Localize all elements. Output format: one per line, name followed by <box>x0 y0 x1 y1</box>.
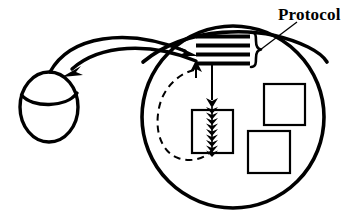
protocol-bar-1 <box>196 35 250 39</box>
small-ellipse-body <box>20 72 78 142</box>
protocol-bar-3 <box>196 53 250 57</box>
arrow-response-inbound-path <box>72 48 196 69</box>
diagram-svg-root <box>0 0 362 216</box>
right-curly-brace-path <box>251 32 261 67</box>
protocol-label: Protocol <box>278 6 341 23</box>
protocol-bar-2 <box>196 44 250 48</box>
diagram-canvas: Protocol <box>0 0 362 216</box>
small-ellipse-lid-arc <box>22 93 78 105</box>
arrow-bars-to-rectangle <box>206 63 218 108</box>
small-ellipse-group <box>20 72 78 142</box>
dashed-feedback-loop <box>158 70 212 160</box>
protocol-bar-4 <box>196 62 250 66</box>
square-lower-right <box>248 131 290 173</box>
protocol-bar-stack <box>196 35 250 66</box>
stacked-arrowhead-chain <box>206 107 218 157</box>
square-upper-right <box>264 84 305 125</box>
right-curly-brace <box>251 32 261 67</box>
